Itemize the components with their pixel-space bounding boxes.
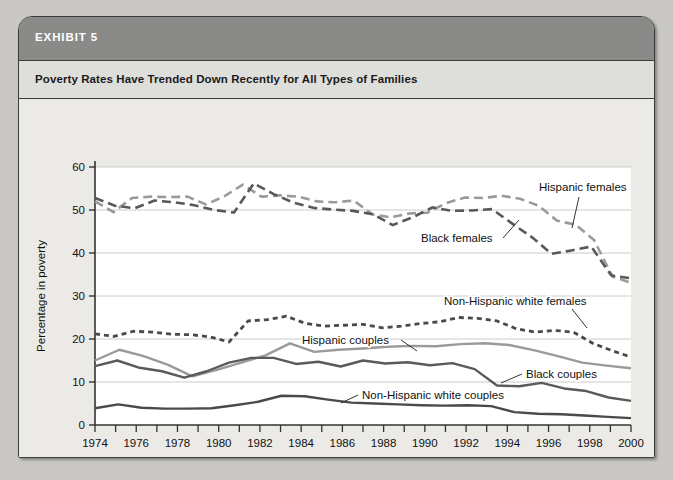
- y-tick-label-0: 0: [79, 419, 85, 431]
- chart-container: 0102030405060Percentage in poverty197419…: [19, 99, 656, 459]
- x-tick-label-1980: 1980: [206, 437, 232, 449]
- x-tick-label-1978: 1978: [165, 437, 191, 449]
- annotation-label-black-females: Black females: [421, 232, 493, 244]
- x-tick-label-2000: 2000: [618, 437, 644, 449]
- annotation-label-black-couples: Black couples: [526, 368, 597, 380]
- annotation-label-hispanic-females: Hispanic females: [539, 181, 627, 193]
- exhibit-header-bar: EXHIBIT 5: [19, 17, 654, 61]
- x-tick-label-1992: 1992: [453, 437, 479, 449]
- exhibit-body: 0102030405060Percentage in poverty197419…: [19, 99, 654, 457]
- y-tick-label-60: 60: [72, 161, 85, 173]
- annotation-label-nonhispanic-white-females: Non-Hispanic white females: [444, 295, 587, 307]
- exhibit-card: EXHIBIT 5 Poverty Rates Have Trended Dow…: [18, 16, 655, 458]
- x-tick-label-1982: 1982: [247, 437, 273, 449]
- y-tick-label-30: 30: [72, 290, 85, 302]
- y-tick-label-40: 40: [72, 247, 85, 259]
- annotation-label-hispanic-couples: Hispanic couples: [302, 334, 389, 346]
- exhibit-number-label: EXHIBIT 5: [35, 31, 98, 43]
- exhibit-subtitle-bar: Poverty Rates Have Trended Down Recently…: [19, 61, 654, 99]
- y-tick-label-50: 50: [72, 204, 85, 216]
- y-tick-label-10: 10: [72, 376, 85, 388]
- x-tick-label-1976: 1976: [123, 437, 149, 449]
- x-tick-label-1994: 1994: [495, 437, 521, 449]
- x-tick-label-1990: 1990: [412, 437, 438, 449]
- x-tick-label-1996: 1996: [536, 437, 562, 449]
- x-tick-label-1984: 1984: [288, 437, 314, 449]
- x-tick-label-1988: 1988: [371, 437, 397, 449]
- annotation-label-nonhispanic-white-couples: Non-Hispanic white couples: [362, 389, 504, 401]
- y-axis-title: Percentage in poverty: [35, 240, 47, 352]
- x-tick-label-1974: 1974: [82, 437, 108, 449]
- x-tick-label-1998: 1998: [577, 437, 603, 449]
- poverty-rates-line-chart: 0102030405060Percentage in poverty197419…: [19, 99, 656, 459]
- x-tick-label-1986: 1986: [330, 437, 356, 449]
- y-tick-label-20: 20: [72, 333, 85, 345]
- exhibit-title: Poverty Rates Have Trended Down Recently…: [35, 73, 417, 85]
- screenshot-root: EXHIBIT 5 Poverty Rates Have Trended Dow…: [0, 0, 673, 480]
